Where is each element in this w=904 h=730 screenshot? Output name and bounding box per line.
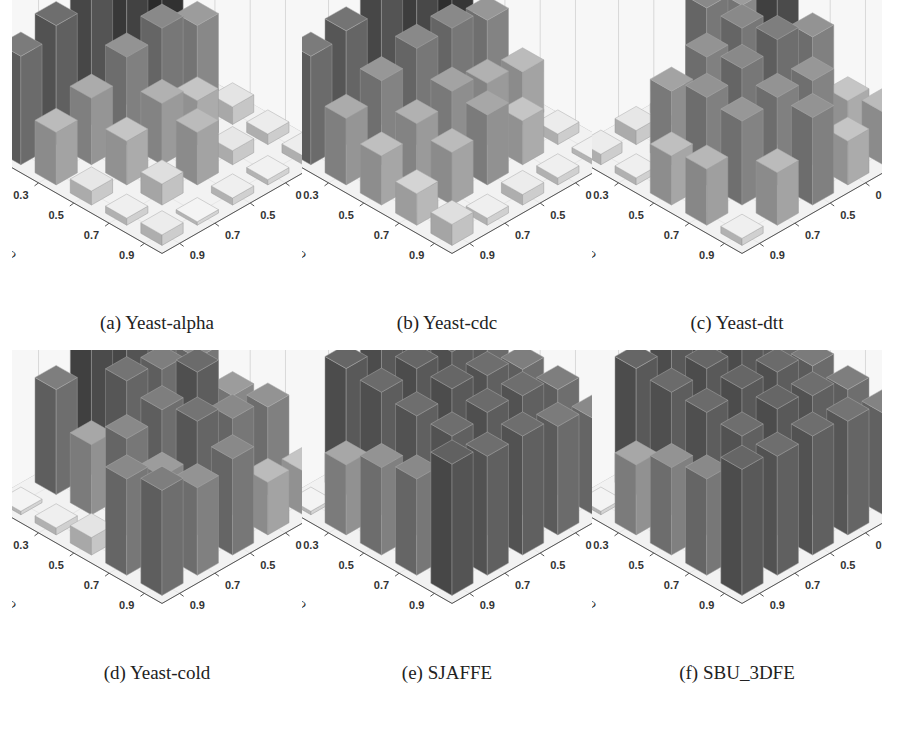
r1-tick-label: 0.9 [770, 599, 785, 611]
panel-a: 0.10.30.50.70.90.10.30.50.70.9r2r1 (a) Y… [12, 0, 302, 350]
plot-area: 0.10.30.50.70.90.10.30.50.70.9r2r1 [12, 350, 302, 615]
r2-tick-label: 0.3 [13, 189, 28, 201]
r2-tick-label: 0.5 [339, 209, 354, 221]
r1-tick-label: 0.7 [515, 579, 530, 591]
r2-tick-label: 0.3 [13, 539, 28, 551]
caption-f: (f) SBU_3DFE [592, 662, 882, 684]
r1-tick-label: 0.3 [875, 539, 882, 551]
r1-tick-label: 0.9 [190, 599, 205, 611]
bar [141, 466, 183, 595]
panel-e: 0.10.30.50.70.90.10.30.50.70.9r2r1 (e) S… [302, 350, 592, 700]
r2-tick-label: 0.3 [593, 189, 608, 201]
r2-tick-label: 0.7 [374, 579, 389, 591]
chart-sjaffe: 0.10.30.50.70.90.10.30.50.70.9r2r1 [302, 350, 592, 660]
r2-tick-label: 0.5 [629, 559, 644, 571]
r1-tick-label: 0.5 [550, 209, 565, 221]
r2-tick-label: 0.9 [119, 599, 134, 611]
panel-f: 0.10.30.50.70.90.10.30.50.70.9r2r1 (f) S… [592, 350, 882, 700]
r2-tick-label: 0.3 [303, 539, 318, 551]
r1-tick-label: 0.9 [190, 249, 205, 261]
r2-tick-label: 0.9 [119, 249, 134, 261]
r2-axis-label: r2 [592, 245, 599, 265]
caption-c: (c) Yeast-dtt [592, 312, 882, 334]
r1-tick-label: 0.5 [260, 559, 275, 571]
bar [756, 149, 798, 226]
plot-area: 0.10.30.50.70.90.10.30.50.70.9r2r1 [12, 0, 302, 265]
r1-tick-label: 0.9 [480, 599, 495, 611]
r1-tick-label: 0.7 [225, 579, 240, 591]
r2-axis-label: r2 [12, 245, 19, 265]
r2-axis-label: r2 [12, 595, 19, 615]
r2-tick-label: 0.3 [593, 539, 608, 551]
panel-b: 0.10.30.50.70.90.10.30.50.70.9r2r1 (b) Y… [302, 0, 592, 350]
chart-sbu-3dfe: 0.10.30.50.70.90.10.30.50.70.9r2r1 [592, 350, 882, 660]
r1-tick-label: 0.5 [260, 209, 275, 221]
bar [35, 108, 77, 185]
chart-yeast-cdc: 0.10.30.50.70.90.10.30.50.70.9r2r1 [302, 0, 592, 310]
r2-tick-label: 0.9 [409, 249, 424, 261]
plot-area: 0.10.30.50.70.90.10.30.50.70.9r2r1 [302, 0, 592, 265]
r2-tick-label: 0.5 [49, 209, 64, 221]
r2-tick-label: 0.9 [409, 599, 424, 611]
bar [431, 440, 473, 595]
r1-tick-label: 0.7 [805, 579, 820, 591]
r1-tick-label: 0.9 [770, 249, 785, 261]
plot-area: 0.10.30.50.70.90.10.30.50.70.9r2r1 [592, 350, 882, 615]
r1-tick-label: 0.9 [480, 249, 495, 261]
r2-tick-label: 0.7 [664, 579, 679, 591]
r2-tick-label: 0.3 [303, 189, 318, 201]
r2-tick-label: 0.7 [374, 229, 389, 241]
caption-d: (d) Yeast-cold [12, 662, 302, 684]
r2-tick-label: 0.7 [84, 579, 99, 591]
bar [721, 445, 763, 595]
r1-tick-label: 0.5 [840, 209, 855, 221]
caption-b: (b) Yeast-cdc [302, 312, 592, 334]
r2-tick-label: 0.9 [699, 599, 714, 611]
r1-tick-label: 0.7 [805, 229, 820, 241]
r1-tick-label: 0.7 [225, 229, 240, 241]
chart-yeast-alpha: 0.10.30.50.70.90.10.30.50.70.9r2r1 [12, 0, 302, 310]
r2-tick-label: 0.7 [84, 229, 99, 241]
panel-d: 0.10.30.50.70.90.10.30.50.70.9r2r1 (d) Y… [12, 350, 302, 700]
r1-tick-label: 0.7 [515, 229, 530, 241]
bar [686, 145, 728, 225]
r2-axis-label: r2 [302, 245, 309, 265]
chart-yeast-cold: 0.10.30.50.70.90.10.30.50.70.9r2r1 [12, 350, 302, 660]
r2-tick-label: 0.5 [49, 559, 64, 571]
plot-area: 0.10.30.50.70.90.10.30.50.70.9r2r1 [302, 350, 592, 615]
r2-axis-label: r2 [592, 595, 599, 615]
r2-tick-label: 0.5 [629, 209, 644, 221]
r1-tick-label: 0.5 [550, 559, 565, 571]
caption-a: (a) Yeast-alpha [12, 312, 302, 334]
r2-tick-label: 0.9 [699, 249, 714, 261]
r2-tick-label: 0.5 [339, 559, 354, 571]
r2-axis-label: r2 [302, 595, 309, 615]
r2-tick-label: 0.7 [664, 229, 679, 241]
panel-c: 0.10.30.50.70.90.10.30.50.70.9r2r1 (c) Y… [592, 0, 882, 350]
r1-tick-label: 0.5 [840, 559, 855, 571]
plot-area: 0.10.30.50.70.90.10.30.50.70.9r2r1 [592, 0, 882, 265]
chart-yeast-dtt: 0.10.30.50.70.90.10.30.50.70.9r2r1 [592, 0, 882, 310]
r1-tick-label: 0.3 [875, 189, 882, 201]
caption-e: (e) SJAFFE [302, 662, 592, 684]
